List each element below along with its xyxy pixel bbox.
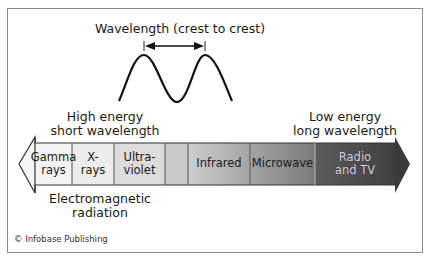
band-microwave: Microwave [250, 143, 315, 185]
band-microwave-line1: Microwave [252, 157, 313, 170]
high-energy-label: High energy short wavelength [35, 110, 175, 139]
caption-line1: Electromagnetic [30, 192, 170, 206]
wavelength-title: Wavelength (crest to crest) [90, 22, 270, 36]
band-infrared: Infrared [188, 143, 250, 185]
band-uv-line2: violet [123, 164, 155, 177]
band-ultraviolet: Ultra-violet [114, 143, 165, 185]
high-energy-line2: short wavelength [35, 124, 175, 138]
band-radio-tv: Radioand TV [315, 143, 395, 185]
band-infrared-line1: Infrared [196, 157, 241, 170]
band-visible [165, 143, 188, 185]
low-energy-line2: long wavelength [270, 124, 420, 138]
band-xray-line2: rays [81, 164, 106, 177]
wave-curve [119, 55, 232, 102]
band-gamma: Gammarays [35, 143, 72, 185]
band-xray: X-rays [72, 143, 114, 185]
copyright-text: © Infobase Publishing [14, 235, 108, 245]
band-gamma-line2: rays [31, 164, 76, 177]
high-energy-line1: High energy [35, 110, 175, 124]
low-energy-line1: Low energy [270, 110, 420, 124]
caption-line2: radiation [30, 206, 170, 220]
arrow-right-icon [395, 137, 410, 193]
wavelength-arrow-icon [144, 41, 205, 51]
band-radio-line2: and TV [335, 164, 375, 177]
em-radiation-caption: Electromagnetic radiation [30, 192, 170, 221]
low-energy-label: Low energy long wavelength [270, 110, 420, 139]
